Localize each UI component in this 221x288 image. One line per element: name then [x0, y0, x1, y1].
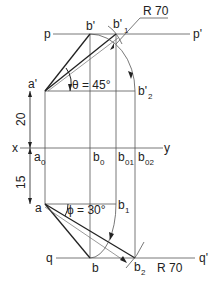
label-b1-sub: 1 [125, 206, 130, 215]
arrow-dim20-top-icon [28, 91, 32, 97]
arrow-dim15-top-icon [28, 148, 32, 154]
label-dim-20: 20 [14, 112, 28, 126]
label-y: y [164, 141, 170, 155]
label-phi: ϕ = 30° [67, 203, 106, 217]
label-b0: b [93, 150, 100, 164]
label-a: a [35, 201, 42, 215]
label-b1: b [118, 198, 125, 212]
label-b0-sub: 0 [100, 158, 105, 167]
arrow-line-top-icon [110, 43, 114, 50]
label-theta: θ = 45° [72, 78, 111, 92]
projection-diagram: p p' b' b' 1 R 70 θ = 45° a' b' 2 20 x y… [0, 0, 221, 288]
label-a0: a [34, 150, 41, 164]
label-p-prime: p' [193, 27, 202, 41]
label-b-prime-2: b' [138, 84, 147, 98]
label-b-prime: b' [86, 19, 95, 33]
arrow-dim20-bottom-icon [28, 142, 32, 148]
label-dim-15: 15 [14, 175, 28, 189]
label-b-prime-1-sub: 1 [124, 26, 129, 35]
label-r70-bottom: R 70 [157, 261, 183, 275]
label-b01: b [118, 150, 125, 164]
label-r70-top: R 70 [143, 4, 169, 18]
label-b02: b [138, 150, 145, 164]
label-b-prime-2-sub: 2 [148, 92, 153, 101]
label-b2-sub: 2 [141, 268, 146, 277]
label-b01-sub: 01 [125, 158, 134, 167]
label-p: p [44, 27, 51, 41]
label-q: q [46, 251, 53, 265]
label-x: x [12, 141, 18, 155]
label-b: b [92, 261, 99, 275]
label-q-prime: q' [199, 251, 208, 265]
label-a-prime: a' [28, 77, 37, 91]
label-b02-sub: 02 [145, 158, 154, 167]
arrow-line-bottom-icon [120, 256, 127, 263]
arrow-dim15-bottom-icon [28, 198, 32, 204]
label-b2: b [134, 260, 141, 274]
label-b-prime-1: b' [113, 17, 122, 31]
label-a0-sub: 0 [41, 158, 46, 167]
